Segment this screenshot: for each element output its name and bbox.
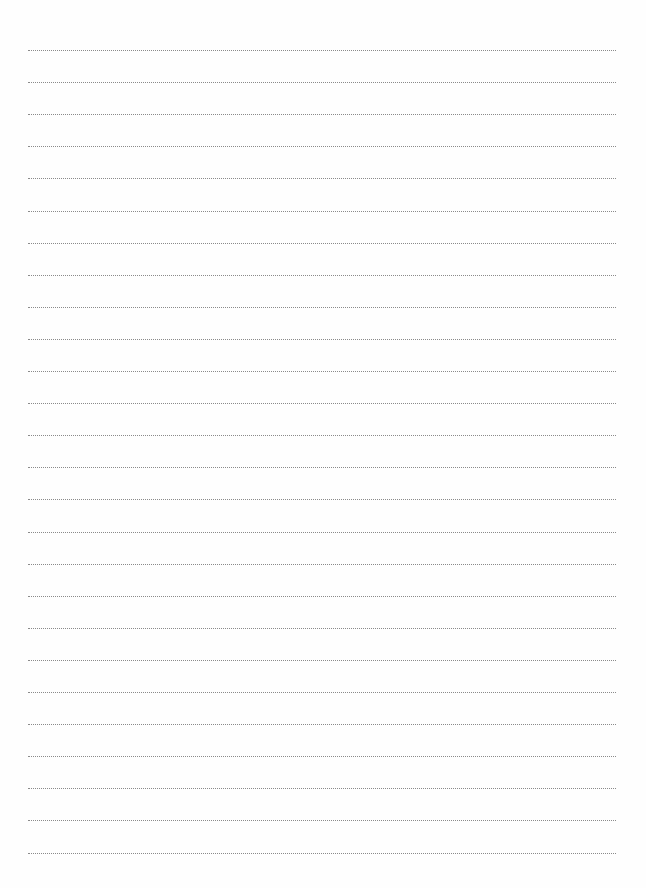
ruled-line	[28, 178, 616, 179]
ruled-line	[28, 307, 616, 308]
lined-page	[0, 0, 646, 888]
ruled-line	[28, 660, 616, 661]
ruled-line	[28, 275, 616, 276]
ruled-line	[28, 788, 616, 789]
ruled-line	[28, 532, 616, 533]
ruled-line	[28, 499, 616, 500]
ruled-line	[28, 403, 616, 404]
ruled-line	[28, 596, 616, 597]
ruled-line	[28, 146, 616, 147]
ruled-line	[28, 724, 616, 725]
ruled-line	[28, 50, 616, 51]
ruled-line	[28, 82, 616, 83]
ruled-line	[28, 628, 616, 629]
ruled-line	[28, 114, 616, 115]
ruled-line	[28, 211, 616, 212]
ruled-line	[28, 435, 616, 436]
ruled-line	[28, 339, 616, 340]
ruled-line	[28, 853, 616, 854]
ruled-line	[28, 243, 616, 244]
ruled-line	[28, 820, 616, 821]
ruled-line	[28, 371, 616, 372]
ruled-line	[28, 467, 616, 468]
ruled-line	[28, 564, 616, 565]
ruled-line	[28, 756, 616, 757]
ruled-line	[28, 692, 616, 693]
